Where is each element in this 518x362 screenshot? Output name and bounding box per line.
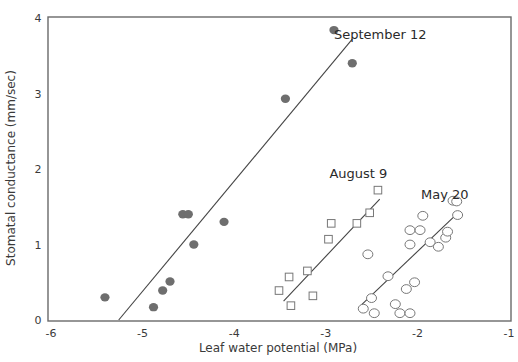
data-point-filled-circle xyxy=(219,218,228,226)
data-point-open-square xyxy=(285,273,293,281)
data-point-open-circle xyxy=(418,211,428,220)
data-point-open-square xyxy=(366,209,374,217)
x-axis-label: Leaf water potential (MPa) xyxy=(199,341,357,355)
data-point-open-square xyxy=(275,287,283,295)
data-point-open-circle xyxy=(367,294,377,303)
data-point-open-circle xyxy=(390,300,400,309)
plot-area-border xyxy=(48,17,511,321)
data-point-open-circle xyxy=(363,250,373,259)
data-point-open-circle xyxy=(369,309,379,318)
data-point-open-circle xyxy=(453,211,463,220)
regression-line xyxy=(119,39,353,320)
data-point-filled-circle xyxy=(348,59,357,67)
series-august-9: August 9 xyxy=(275,166,387,309)
scatter-chart: -6-5-4-3-2-1 01234 Leaf water potential … xyxy=(0,0,518,362)
x-axis-ticks: -6-5-4-3-2-1 xyxy=(46,327,515,340)
data-point-filled-circle xyxy=(189,240,198,248)
data-point-open-circle xyxy=(405,226,415,235)
data-point-open-square xyxy=(327,220,335,228)
series-layer: September 12August 9May 20 xyxy=(100,26,468,320)
series-label-september-12: September 12 xyxy=(334,27,427,42)
data-point-filled-circle xyxy=(149,303,158,311)
x-tick-label: -6 xyxy=(46,327,57,340)
y-tick-label: 0 xyxy=(35,314,42,327)
data-point-open-circle xyxy=(415,226,425,235)
series-label-may-20: May 20 xyxy=(421,187,469,202)
data-point-open-circle xyxy=(395,309,405,318)
x-tick-label: -2 xyxy=(412,327,423,340)
series-label-august-9: August 9 xyxy=(329,166,387,181)
x-tick-label: -4 xyxy=(229,327,240,340)
data-point-open-circle xyxy=(443,227,453,236)
data-point-open-circle xyxy=(405,240,415,249)
y-axis-label: Stomatal conductance (mm/sec) xyxy=(4,70,18,266)
data-point-open-circle xyxy=(383,272,393,281)
y-tick-label: 4 xyxy=(35,12,42,25)
data-point-open-circle xyxy=(410,278,420,287)
data-point-open-circle xyxy=(405,309,415,318)
x-tick-label: -5 xyxy=(137,327,148,340)
series-may-20: May 20 xyxy=(358,187,468,317)
data-point-open-square xyxy=(374,186,382,194)
data-point-filled-circle xyxy=(165,277,174,285)
y-tick-label: 2 xyxy=(35,163,42,176)
data-point-open-square xyxy=(304,267,312,275)
data-point-filled-circle xyxy=(184,210,193,218)
data-point-filled-circle xyxy=(281,95,290,103)
data-point-filled-circle xyxy=(158,286,167,294)
x-tick-label: -3 xyxy=(320,327,331,340)
data-point-filled-circle xyxy=(100,293,109,301)
y-tick-label: 3 xyxy=(35,88,42,101)
y-tick-label: 1 xyxy=(35,239,42,252)
data-point-open-circle xyxy=(401,285,411,294)
plot-frame xyxy=(48,17,511,321)
x-tick-label: -1 xyxy=(504,327,515,340)
data-point-open-square xyxy=(287,302,295,310)
data-point-open-circle xyxy=(358,304,368,313)
data-point-open-circle xyxy=(433,242,443,251)
data-point-open-square xyxy=(325,235,333,243)
data-point-open-square xyxy=(309,292,317,300)
y-axis-ticks: 01234 xyxy=(35,12,42,327)
data-point-open-square xyxy=(353,220,361,228)
